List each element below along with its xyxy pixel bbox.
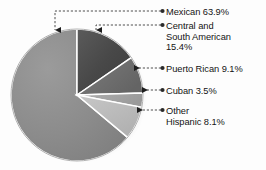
callout-label-other-hispanic: Other Hispanic 8.1% <box>166 106 225 127</box>
bullet-central-south-american <box>160 23 164 27</box>
bullet-cuban <box>160 88 164 92</box>
leader-mexican <box>55 11 161 30</box>
callout-label-puerto-rican: Puerto Rican 9.1% <box>166 64 243 75</box>
pie-chart-figure: Mexican 63.9% Central and South American… <box>0 0 266 170</box>
bullet-puerto-rican <box>160 66 164 70</box>
bullet-other-hispanic <box>160 108 164 112</box>
leader-central-south-american <box>96 25 161 30</box>
callout-bullets <box>160 9 164 112</box>
callout-label-mexican: Mexican 63.9% <box>166 7 229 18</box>
callout-label-central-south-american: Central and South American 15.4% <box>166 21 231 53</box>
callout-label-cuban: Cuban 3.5% <box>166 86 217 97</box>
pie-wedges <box>11 29 143 161</box>
bullet-mexican <box>160 9 164 13</box>
